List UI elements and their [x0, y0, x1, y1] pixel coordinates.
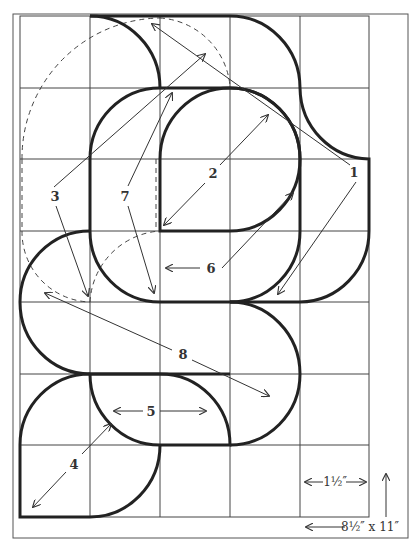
pattern-outlines: [20, 16, 369, 517]
label-piece-2: 2: [208, 166, 217, 181]
label-piece-1: 1: [349, 165, 358, 180]
dashed-guides: [22, 18, 230, 302]
label-piece-7: 7: [120, 189, 129, 204]
grid: [20, 16, 369, 517]
diagram-canvas: 1 2 3 4 5 6 7 8 1½″ 8½″ x 11″: [0, 0, 417, 554]
label-piece-5: 5: [146, 404, 155, 419]
cell-size-label: 1½″: [323, 475, 347, 489]
label-piece-8: 8: [178, 347, 187, 362]
paper-size-label: 8½″ x 11″: [341, 520, 399, 534]
label-piece-3: 3: [50, 189, 59, 204]
label-piece-6: 6: [206, 261, 215, 276]
label-piece-4: 4: [69, 457, 78, 472]
